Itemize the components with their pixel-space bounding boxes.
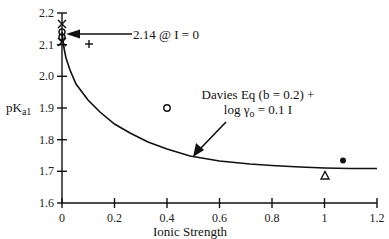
x-axis-title: Ionic Strength <box>153 224 228 239</box>
y-tick-labels: 2.2 2.1 2.0 1.9 1.8 1.7 1.6 <box>39 6 54 210</box>
y-tick-1.8: 1.8 <box>39 133 54 147</box>
x-tick-1.2: 1.2 <box>370 211 385 225</box>
x-tick-0.2: 0.2 <box>107 211 122 225</box>
x-tick-0: 0 <box>59 211 65 225</box>
annotation-text-intercept: 2.14 @ I = 0 <box>133 27 199 42</box>
x-tick-0.4: 0.4 <box>160 211 175 225</box>
open-circle-marker <box>164 105 170 111</box>
y-tick-1.6: 1.6 <box>39 196 54 210</box>
x-tick-1: 1 <box>322 211 328 225</box>
x-tick-0.6: 0.6 <box>212 211 227 225</box>
y-axis-title: pKa1 <box>6 100 31 117</box>
annotation-davies: Davies Eq (b = 0.2) + log γo = 0.1 I <box>193 87 314 157</box>
annotation-davies-line1: Davies Eq (b = 0.2) + <box>202 87 315 102</box>
annotation-2.14: 2.14 @ I = 0 <box>66 27 199 42</box>
filled-dot-marker <box>341 158 346 163</box>
y-tick-2.1: 2.1 <box>39 38 54 52</box>
y-tick-2.2: 2.2 <box>39 6 54 20</box>
annotation-davies-line2: log γo = 0.1 I <box>224 102 292 119</box>
y-tick-1.7: 1.7 <box>39 164 54 178</box>
plus-marker <box>85 40 93 48</box>
y-tick-2.0: 2.0 <box>39 69 54 83</box>
y-tick-1.9: 1.9 <box>39 101 54 115</box>
pka-chart: 2.2 2.1 2.0 1.9 1.8 1.7 1.6 0 0.2 0.4 0.… <box>0 0 389 239</box>
arrow-head-icon <box>66 30 80 39</box>
arrow-head-icon <box>193 143 204 157</box>
x-tick-labels: 0 0.2 0.4 0.6 0.8 1 1.2 <box>59 211 385 225</box>
x-tick-0.8: 0.8 <box>265 211 280 225</box>
triangle-marker <box>321 172 329 180</box>
